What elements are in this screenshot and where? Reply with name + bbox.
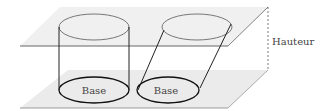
right-base-label: Base xyxy=(154,85,178,96)
height-label: Hauteur xyxy=(272,36,315,47)
cylinder-diagram: Base Base Hauteur xyxy=(0,0,328,111)
top-plane xyxy=(20,7,268,46)
left-base-label: Base xyxy=(82,85,106,96)
